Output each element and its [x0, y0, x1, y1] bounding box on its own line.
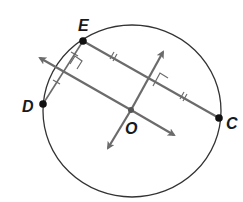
label-e: E: [78, 17, 90, 34]
chord-ed: [43, 41, 83, 104]
point-e: [79, 37, 87, 45]
point-o: [128, 107, 134, 113]
label-c: C: [226, 115, 238, 132]
point-c: [215, 114, 223, 122]
point-d: [39, 100, 47, 108]
perpendicular-bisector-ec: [131, 52, 163, 110]
label-o: O: [125, 120, 138, 137]
geometry-diagram: E D C O: [0, 0, 243, 202]
perpendicular-bisector-ed: [40, 58, 131, 110]
label-d: D: [22, 98, 34, 115]
chord-ec: [83, 41, 219, 118]
